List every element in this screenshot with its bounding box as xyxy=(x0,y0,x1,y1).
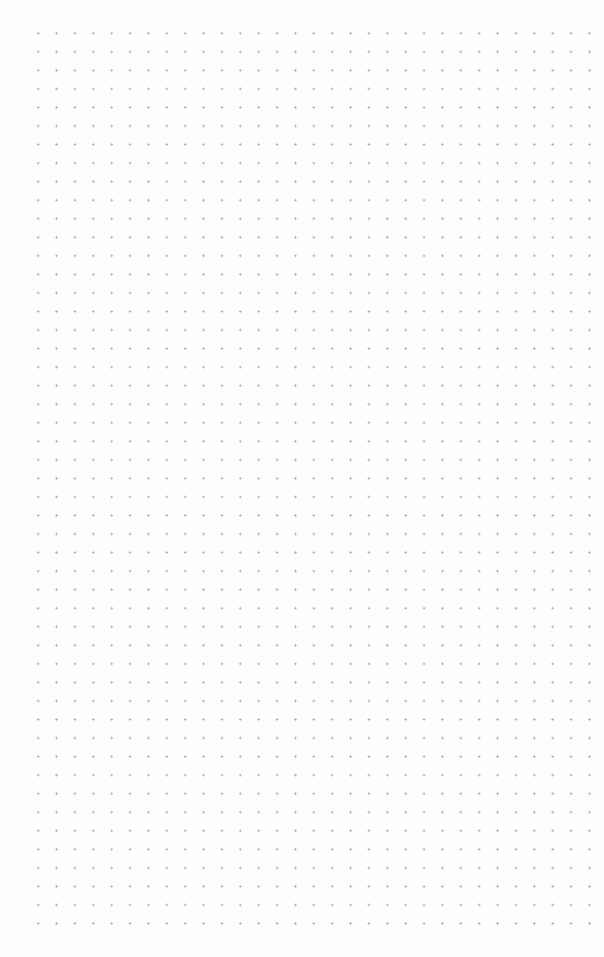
dot-grid-page xyxy=(0,0,604,957)
dot-grid xyxy=(29,24,599,933)
